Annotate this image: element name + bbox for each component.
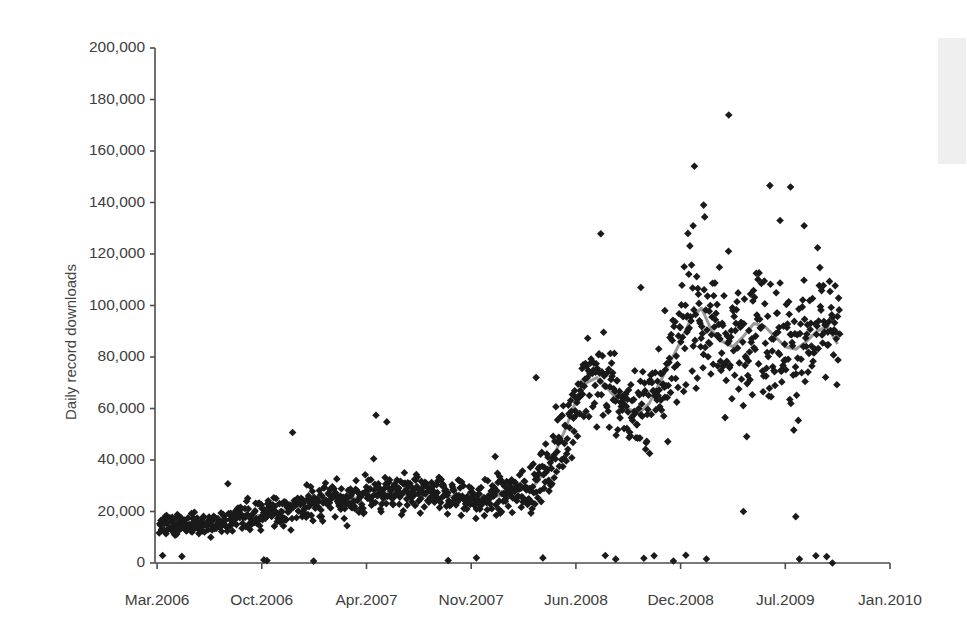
y-tick-label: 140,000 bbox=[89, 193, 145, 211]
y-tick-label: 160,000 bbox=[89, 141, 145, 159]
y-tick-label: 180,000 bbox=[89, 90, 145, 108]
y-tick-label: 60,000 bbox=[98, 399, 145, 417]
scatter-plot-canvas bbox=[0, 0, 967, 641]
trend-line bbox=[159, 308, 837, 529]
chart-figure: Daily record downloads 020,00040,00060,0… bbox=[0, 0, 967, 641]
y-tick-label: 0 bbox=[136, 553, 145, 571]
y-tick-label: 80,000 bbox=[98, 347, 145, 365]
x-tick-label: Jan.2010 bbox=[820, 591, 960, 609]
y-tick-label: 200,000 bbox=[89, 38, 145, 56]
y-tick-label: 120,000 bbox=[89, 244, 145, 262]
scan-artifact-block bbox=[938, 38, 966, 164]
y-tick-label: 100,000 bbox=[89, 296, 145, 314]
y-tick-label: 40,000 bbox=[98, 450, 145, 468]
y-tick-label: 20,000 bbox=[98, 502, 145, 520]
y-axis-title: Daily record downloads bbox=[62, 264, 79, 420]
